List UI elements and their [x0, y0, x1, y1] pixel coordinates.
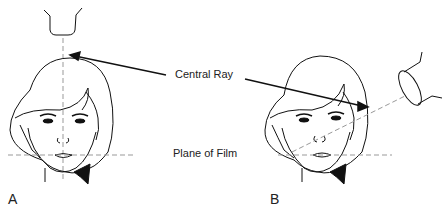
- radiography-diagram: [0, 0, 445, 212]
- xray-tube-b-icon: [394, 52, 442, 109]
- leader-arrow-a: [75, 56, 166, 75]
- central-ray-leaders: [70, 52, 368, 111]
- panel-b-drawing: [265, 52, 442, 184]
- panel-b-label: B: [270, 191, 279, 207]
- neck-shadow-b: [330, 164, 346, 184]
- central-ray-b-dashed: [292, 96, 405, 152]
- central-ray-label: Central Ray: [175, 68, 233, 80]
- arrowhead-a-icon: [70, 52, 80, 60]
- xray-tube-a-icon: [44, 8, 82, 35]
- panel-a-label: A: [8, 191, 17, 207]
- plane-of-film-label: Plane of Film: [173, 147, 237, 159]
- neck-shadow-a: [74, 164, 90, 184]
- panel-a-drawing: [8, 8, 135, 184]
